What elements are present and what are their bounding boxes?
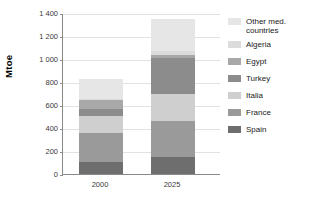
chart-page: Mtoe 02004006008001 0001 2001 400 200020… [0,0,322,201]
legend-item-italia[interactable]: Italia [228,91,320,104]
y-axis-tick-label: 1 000 [0,56,58,64]
y-axis-tick [60,106,63,107]
y-axis-tick-label: 200 [0,148,58,156]
legend-swatch-spain [228,126,241,133]
y-axis-tick [60,175,63,176]
gridline [63,37,220,38]
gridline [63,60,220,61]
bar-segment-italia [151,94,195,121]
legend-label-spain: Spain [246,125,266,134]
bar-segment-turkey [79,109,123,116]
bar-segment-other-med-countries [79,79,123,99]
legend-item-france[interactable]: France [228,108,320,121]
y-axis-tick [60,60,63,61]
bar-segment-other-med-countries [151,19,195,51]
y-axis-tick-label: 0 [0,171,58,179]
x-axis-tick-label-2000: 2000 [70,180,130,189]
bar-segment-france [79,133,123,162]
y-axis-tick-label: 400 [0,125,58,133]
y-axis-tick [60,152,63,153]
legend-item-algeria[interactable]: Algeria [228,40,320,53]
legend-swatch-italia [228,92,241,99]
bar-stack-2025 [151,19,195,174]
legend-label-turkey: Turkey [246,74,270,83]
bar-segment-spain [79,162,123,174]
bar-segment-italia [79,116,123,133]
y-axis-tick [60,129,63,130]
bar-segment-france [151,121,195,158]
legend-label-egypt: Egypt [246,57,266,66]
legend-label-algeria: Algeria [246,40,271,49]
legend-item-spain[interactable]: Spain [228,125,320,138]
legend-item-egypt[interactable]: Egypt [228,57,320,70]
legend-label-france: France [246,108,271,117]
bar-segment-spain [151,157,195,174]
legend-swatch-france [228,109,241,116]
gridline [63,14,220,15]
legend-swatch-algeria [228,41,241,48]
chart-legend: Other med. countriesAlgeriaEgyptTurkeyIt… [228,17,320,142]
legend-label-other-med-countries: Other med. countries [246,17,286,35]
y-axis-tick-label: 800 [0,79,58,87]
legend-swatch-other-med-countries [228,18,241,25]
legend-item-turkey[interactable]: Turkey [228,74,320,87]
legend-item-other-med-countries[interactable]: Other med. countries [228,17,320,37]
x-axis-tick-labels: 20002025 [62,180,220,192]
y-axis-tick-label: 1 200 [0,33,58,41]
y-axis-tick-label: 1 400 [0,10,58,18]
legend-swatch-egypt [228,58,241,65]
y-axis-tick [60,37,63,38]
x-axis-tick-label-2025: 2025 [142,180,202,189]
y-axis-tick-label: 600 [0,102,58,110]
bar-segment-egypt [79,100,123,109]
y-axis-tick-labels: 02004006008001 0001 2001 400 [0,14,58,175]
y-axis-tick [60,83,63,84]
plot-area [62,14,220,175]
bar-stack-2000 [79,79,123,174]
y-axis-tick [60,14,63,15]
legend-label-italia: Italia [246,91,263,100]
legend-swatch-turkey [228,75,241,82]
bar-segment-turkey [151,58,195,94]
